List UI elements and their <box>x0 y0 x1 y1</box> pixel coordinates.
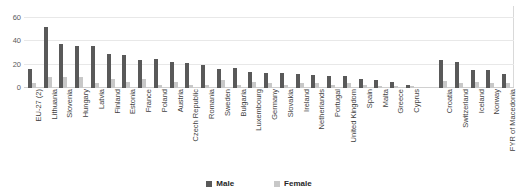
bar-female <box>32 83 36 88</box>
bar-female <box>111 79 115 88</box>
bar-female <box>95 83 99 88</box>
bar-female <box>443 81 447 88</box>
bar-group <box>386 6 402 88</box>
bar-group <box>24 6 40 88</box>
legend-swatch-male-icon <box>206 181 212 187</box>
bar-female <box>410 86 414 88</box>
bar-group <box>229 6 245 88</box>
bar-group <box>182 6 198 88</box>
bars-area <box>24 6 514 88</box>
y-tick-label-0: 0 <box>17 84 21 92</box>
x-axis-label: Bulgaria <box>240 89 248 117</box>
y-tick-label-40: 40 <box>13 37 21 45</box>
bar-group <box>87 6 103 88</box>
x-axis-label: Finland <box>114 89 122 114</box>
bar-group <box>134 6 150 88</box>
x-axis-label: Latvia <box>98 89 106 109</box>
y-tick-label-20: 20 <box>13 61 21 69</box>
bar-group <box>166 6 182 88</box>
x-axis-label: Norway <box>493 89 501 114</box>
bar-group <box>56 6 72 88</box>
bar-group <box>482 6 498 88</box>
bar-female <box>126 82 130 88</box>
x-axis-label: Spain <box>366 89 374 108</box>
bar-female <box>300 83 304 88</box>
bar-female <box>221 80 225 88</box>
x-axis-label: Malta <box>382 89 390 107</box>
x-axis-label: Ireland <box>303 89 311 112</box>
bar-group <box>402 6 418 88</box>
bar-group <box>371 6 387 88</box>
bar-group <box>435 6 451 88</box>
bar-group <box>119 6 135 88</box>
bar-female <box>158 85 162 89</box>
bar-female <box>475 82 479 88</box>
x-axis-label: Switzerland <box>462 89 470 128</box>
bar-group <box>150 6 166 88</box>
bar-group <box>323 6 339 88</box>
x-axis-label: Netherlands <box>318 89 326 129</box>
x-axis-label: Cyprus <box>413 89 421 113</box>
bar-group <box>40 6 56 88</box>
bar-female <box>63 77 67 88</box>
bar-female <box>268 83 272 88</box>
bar-female <box>363 85 367 89</box>
x-axis-labels: EU-27 (2)LithuaniaSloveniaHungaryLatviaF… <box>24 89 514 169</box>
x-axis-label: Austria <box>177 89 185 112</box>
chart-legend: MaleFemale <box>0 180 518 188</box>
bar-female <box>48 77 52 88</box>
x-axis-label: FYR of Macedonia <box>509 89 517 151</box>
bar-group <box>260 6 276 88</box>
x-axis-label: Czech Republic <box>192 89 200 142</box>
bar-female <box>237 85 241 89</box>
bar-female <box>378 86 382 88</box>
x-axis-label: Estonia <box>129 89 137 114</box>
x-axis-label: Iceland <box>478 89 486 113</box>
bar-group <box>339 6 355 88</box>
bar-group <box>451 6 467 88</box>
bar-female <box>189 85 193 89</box>
bar-female <box>459 83 463 88</box>
x-axis-label: Slovakia <box>287 89 295 117</box>
bar-chart: 0204060 EU-27 (2)LithuaniaSloveniaHungar… <box>0 0 518 194</box>
bar-female <box>142 79 146 88</box>
bar-female <box>205 85 209 89</box>
bar-female <box>284 85 288 89</box>
x-axis-label: Sweden <box>224 89 232 116</box>
bar-male <box>91 46 95 88</box>
x-axis-label: EU-27 (2) <box>35 89 43 122</box>
x-axis-label: Slovenia <box>66 89 74 118</box>
x-axis-label: Portugal <box>334 89 342 117</box>
bar-group <box>276 6 292 88</box>
bar-female <box>490 83 494 88</box>
legend-swatch-female-icon <box>274 181 280 187</box>
legend-label-female: Female <box>284 180 312 188</box>
bar-group <box>292 6 308 88</box>
y-tick-label-60: 60 <box>13 14 21 22</box>
bar-group <box>197 6 213 88</box>
bar-group <box>355 6 371 88</box>
x-axis-label: Romania <box>208 89 216 119</box>
bar-group <box>498 6 514 88</box>
x-axis-label: Poland <box>161 89 169 112</box>
bar-female <box>79 77 83 88</box>
bar-female <box>174 82 178 88</box>
x-axis-label: United Kingdom <box>350 89 358 142</box>
x-axis-label: Germany <box>271 89 279 120</box>
legend-item-female[interactable]: Female <box>274 180 312 188</box>
bar-female <box>347 83 351 88</box>
bar-female <box>331 85 335 89</box>
bar-female <box>315 83 319 88</box>
x-axis-label: Lithuania <box>51 89 59 119</box>
y-axis: 0204060 <box>0 0 24 92</box>
bar-female <box>506 83 510 88</box>
bar-group <box>213 6 229 88</box>
bar-group <box>103 6 119 88</box>
x-axis-label: Hungary <box>82 89 90 117</box>
x-axis-label: Croatia <box>446 89 454 113</box>
bar-group <box>245 6 261 88</box>
x-axis-label: France <box>145 89 153 112</box>
legend-item-male[interactable]: Male <box>206 180 234 188</box>
bar-female <box>252 82 256 88</box>
bar-group <box>71 6 87 88</box>
